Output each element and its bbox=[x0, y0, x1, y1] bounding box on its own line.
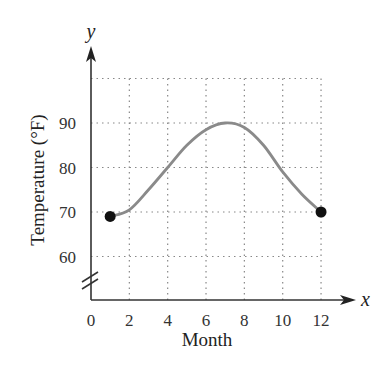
x-variable-label: x bbox=[360, 288, 370, 310]
endpoint-dot bbox=[105, 211, 116, 222]
y-tick-label: 60 bbox=[59, 248, 76, 267]
x-tick-label: 10 bbox=[274, 311, 291, 330]
temperature-curve bbox=[110, 123, 321, 217]
x-tick-label: 8 bbox=[240, 311, 249, 330]
grid bbox=[91, 79, 321, 301]
endpoint-markers bbox=[105, 207, 327, 222]
y-tick-label: 90 bbox=[59, 114, 76, 133]
x-tick-label: 12 bbox=[313, 311, 330, 330]
endpoint-dot bbox=[316, 207, 327, 218]
y-tick-label: 80 bbox=[59, 159, 76, 178]
y-tick-labels: 60708090 bbox=[59, 114, 76, 267]
x-tick-label: 2 bbox=[125, 311, 134, 330]
axes bbox=[82, 46, 356, 305]
x-axis-title: Month bbox=[182, 329, 233, 350]
y-axis-title: Temperature (°F) bbox=[27, 114, 49, 245]
temperature-chart: 024681012 60708090 Month Temperature (°F… bbox=[0, 0, 389, 370]
x-tick-label: 6 bbox=[202, 311, 211, 330]
y-tick-label: 70 bbox=[59, 203, 76, 222]
x-tick-label: 4 bbox=[163, 311, 172, 330]
x-tick-labels: 024681012 bbox=[87, 311, 330, 330]
x-tick-label: 0 bbox=[87, 311, 96, 330]
axis-break-icon bbox=[82, 272, 98, 289]
y-variable-label: y bbox=[85, 20, 96, 43]
